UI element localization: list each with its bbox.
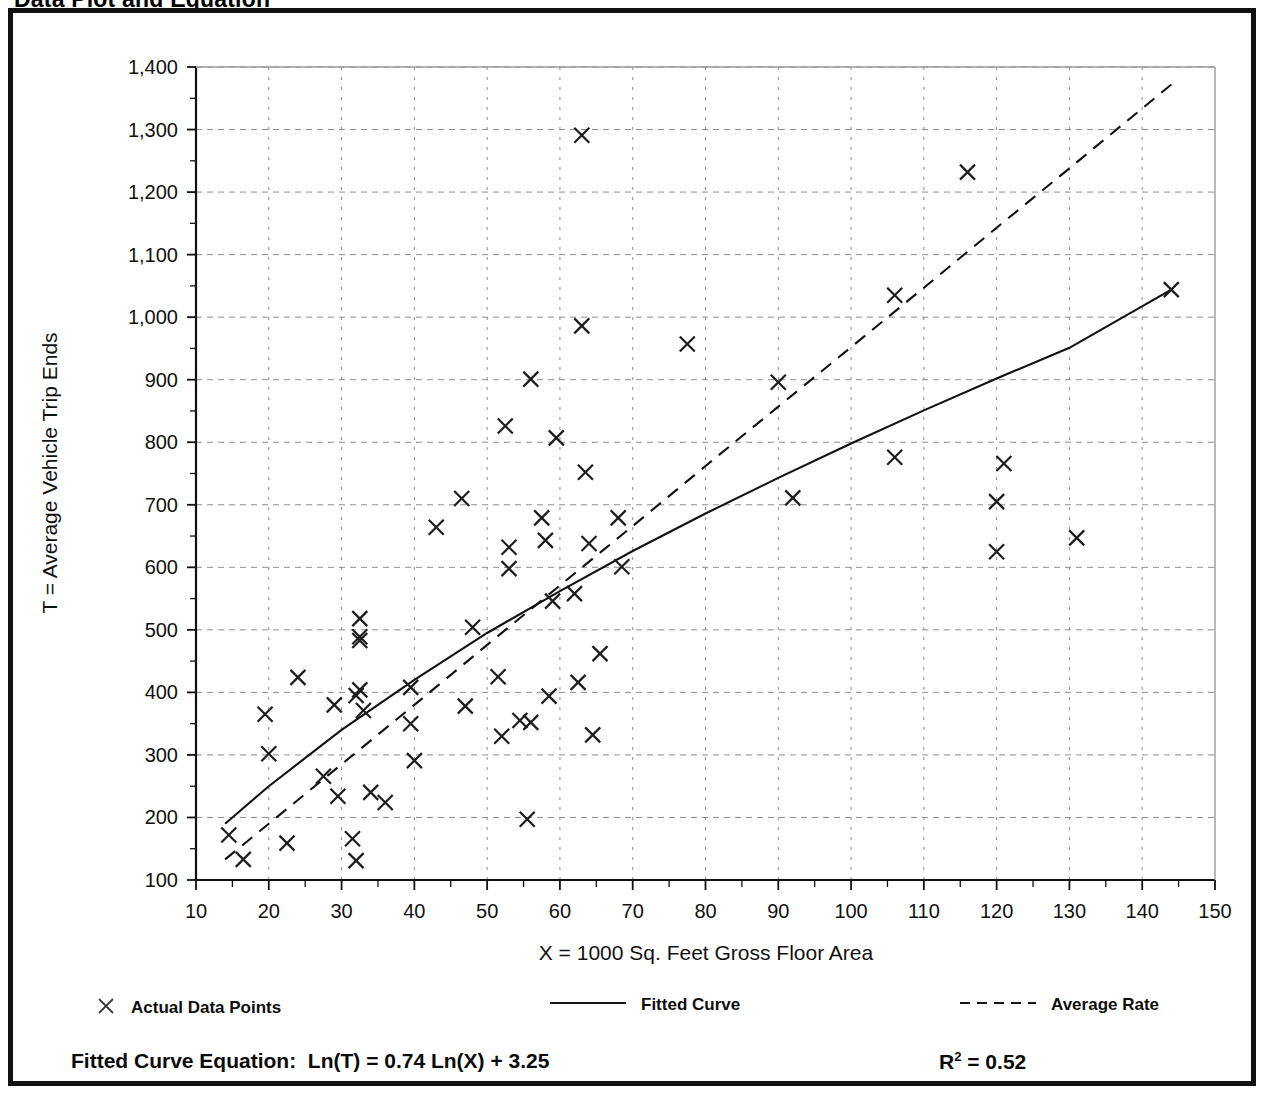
data-point-marker bbox=[352, 682, 367, 697]
r-squared-value: R2 = 0.52 bbox=[939, 1049, 1026, 1074]
data-point-marker bbox=[989, 494, 1004, 509]
data-point-marker bbox=[542, 689, 557, 704]
data-point-marker bbox=[567, 586, 582, 601]
y-tick-label: 1,100 bbox=[128, 244, 178, 266]
x-tick-label: 30 bbox=[330, 900, 352, 922]
data-point-marker bbox=[407, 753, 422, 768]
legend-item-actual-data-points: Actual Data Points bbox=[95, 995, 281, 1021]
data-point-marker bbox=[680, 337, 695, 352]
average-rate-line bbox=[225, 85, 1171, 860]
r-squared-number: = 0.52 bbox=[967, 1050, 1026, 1073]
data-point-marker bbox=[960, 165, 975, 180]
data-point-marker bbox=[352, 611, 367, 626]
chart-legend: Actual Data Points Fitted Curve Average … bbox=[13, 991, 1261, 1031]
r-squared-symbol: R bbox=[939, 1050, 954, 1073]
figure-frame: 1002003004005006007008009001,0001,1001,2… bbox=[8, 8, 1256, 1086]
data-point-marker bbox=[403, 716, 418, 731]
x-tick-label: 40 bbox=[403, 900, 425, 922]
data-point-marker bbox=[345, 831, 360, 846]
data-point-marker bbox=[1069, 530, 1084, 545]
x-tick-label: 60 bbox=[549, 900, 571, 922]
y-tick-label: 400 bbox=[145, 681, 178, 703]
data-point-marker bbox=[502, 561, 517, 576]
y-tick-label: 600 bbox=[145, 556, 178, 578]
data-point-marker bbox=[520, 812, 535, 827]
data-point-marker bbox=[585, 727, 600, 742]
y-tick-label: 200 bbox=[145, 806, 178, 828]
data-point-marker bbox=[349, 853, 364, 868]
x-tick-label: 20 bbox=[258, 900, 280, 922]
x-tick-label: 150 bbox=[1198, 900, 1231, 922]
data-point-marker bbox=[498, 419, 513, 434]
legend-item-average-rate: Average Rate bbox=[959, 995, 1159, 1015]
fitted-curve-equation-formula: Ln(T) = 0.74 Ln(X) + 3.25 bbox=[308, 1049, 550, 1072]
y-tick-label: 1,000 bbox=[128, 306, 178, 328]
data-point-marker bbox=[582, 536, 597, 551]
dashed-line-icon bbox=[959, 996, 1037, 1014]
data-point-marker bbox=[887, 288, 902, 303]
fitted-curve-equation: Fitted Curve Equation: Ln(T) = 0.74 Ln(X… bbox=[71, 1049, 549, 1073]
y-tick-label: 800 bbox=[145, 431, 178, 453]
x-tick-label: 100 bbox=[834, 900, 867, 922]
data-point-marker bbox=[454, 491, 469, 506]
data-point-marker bbox=[280, 836, 295, 851]
y-tick-label: 900 bbox=[145, 369, 178, 391]
legend-label-actual-data-points: Actual Data Points bbox=[131, 998, 281, 1018]
data-point-marker bbox=[378, 795, 393, 810]
x-tick-label: 90 bbox=[767, 900, 789, 922]
data-point-marker bbox=[1164, 282, 1179, 297]
data-point-marker bbox=[574, 318, 589, 333]
y-tick-label: 300 bbox=[145, 744, 178, 766]
data-point-marker bbox=[290, 670, 305, 685]
data-point-marker bbox=[523, 715, 538, 730]
data-point-marker bbox=[578, 465, 593, 480]
data-point-marker bbox=[571, 675, 586, 690]
data-point-marker bbox=[785, 490, 800, 505]
data-point-marker bbox=[465, 620, 480, 635]
y-tick-label: 1,300 bbox=[128, 119, 178, 141]
data-point-marker bbox=[614, 559, 629, 574]
data-point-marker bbox=[236, 852, 251, 867]
data-point-marker bbox=[494, 729, 509, 744]
y-tick-label: 700 bbox=[145, 494, 178, 516]
legend-label-fitted-curve: Fitted Curve bbox=[641, 995, 740, 1015]
data-point-marker bbox=[221, 828, 236, 843]
data-point-marker bbox=[887, 450, 902, 465]
x-tick-label: 120 bbox=[980, 900, 1013, 922]
r-squared-exponent: 2 bbox=[954, 1049, 961, 1064]
x-tick-label: 70 bbox=[622, 900, 644, 922]
scatter-data-points bbox=[221, 128, 1179, 868]
x-tick-label: 130 bbox=[1053, 900, 1086, 922]
y-tick-label: 1,400 bbox=[128, 56, 178, 78]
data-point-marker bbox=[549, 430, 564, 445]
y-tick-label: 500 bbox=[145, 619, 178, 641]
x-axis-tick-labels: 102030405060708090100110120130140150 bbox=[185, 900, 1232, 922]
equation-row: Fitted Curve Equation: Ln(T) = 0.74 Ln(X… bbox=[13, 1049, 1261, 1099]
y-axis-tick-labels: 1002003004005006007008009001,0001,1001,2… bbox=[128, 56, 178, 891]
data-point-marker bbox=[611, 510, 626, 525]
data-point-marker bbox=[330, 789, 345, 804]
y-tick-label: 100 bbox=[145, 869, 178, 891]
data-point-marker bbox=[429, 520, 444, 535]
data-point-marker bbox=[593, 646, 608, 661]
data-point-marker bbox=[989, 544, 1004, 559]
x-axis-title: X = 1000 Sq. Feet Gross Floor Area bbox=[539, 941, 874, 964]
data-point-marker bbox=[523, 372, 538, 387]
chart-plot-area: 1002003004005006007008009001,0001,1001,2… bbox=[13, 13, 1261, 988]
data-point-marker bbox=[491, 669, 506, 684]
fitted-curve-equation-label: Fitted Curve Equation: bbox=[71, 1049, 296, 1072]
data-point-marker bbox=[996, 456, 1011, 471]
y-tick-label: 1,200 bbox=[128, 181, 178, 203]
data-point-marker bbox=[258, 707, 273, 722]
x-tick-label: 10 bbox=[185, 900, 207, 922]
minor-tick-marks bbox=[190, 98, 1179, 887]
x-marker-icon bbox=[95, 995, 117, 1021]
legend-item-fitted-curve: Fitted Curve bbox=[549, 995, 740, 1015]
data-point-marker bbox=[502, 540, 517, 555]
legend-label-average-rate: Average Rate bbox=[1051, 995, 1159, 1015]
y-axis-title: T = Average Vehicle Trip Ends bbox=[38, 332, 61, 613]
x-tick-label: 50 bbox=[476, 900, 498, 922]
data-point-marker bbox=[363, 785, 378, 800]
data-point-marker bbox=[327, 697, 342, 712]
data-point-marker bbox=[538, 533, 553, 548]
